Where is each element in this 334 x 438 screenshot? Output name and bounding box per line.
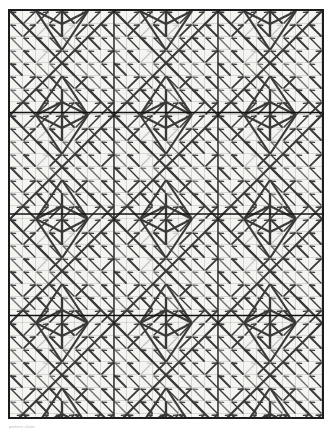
stitch-pattern-graphic	[10, 11, 322, 417]
chart-page: pattern chart	[0, 0, 334, 438]
chart-frame	[8, 9, 324, 419]
chart-canvas	[10, 11, 322, 417]
chart-caption: pattern chart	[9, 424, 309, 430]
